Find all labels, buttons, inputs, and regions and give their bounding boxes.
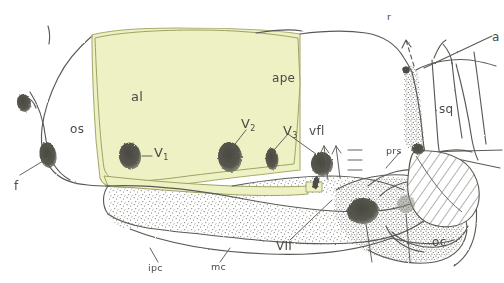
label-V3-sub: 3 <box>292 131 297 140</box>
label-V1-sub: 1 <box>163 153 168 162</box>
label-prs: prs <box>386 146 402 156</box>
label-V2: V2 <box>241 117 256 130</box>
label-oc: oc <box>432 236 447 248</box>
label-mc: mc <box>211 262 226 272</box>
label-r: r <box>387 12 391 22</box>
label-V1: V1 <box>154 146 169 159</box>
label-a: a <box>492 31 500 43</box>
blot-f-lower <box>37 141 58 170</box>
anatomical-drawing <box>0 0 504 283</box>
label-vfl: vfl <box>309 125 325 137</box>
label-al: al <box>131 90 143 103</box>
label-V2-sub: 2 <box>250 124 255 133</box>
label-V3-text: V <box>283 123 292 138</box>
label-VII: VII <box>276 240 292 252</box>
label-ipc: ipc <box>148 263 163 273</box>
label-V2-text: V <box>241 116 250 131</box>
figure-canvas: al os f ape V1 V2 V3 vfl sq prs oc VII i… <box>0 0 504 283</box>
blot-soft-posterior <box>397 195 415 213</box>
label-V3: V3 <box>283 124 298 137</box>
label-f: f <box>14 180 19 192</box>
highlight-region-al <box>92 28 322 196</box>
label-os: os <box>70 123 84 135</box>
hatched-plate-prs <box>408 151 480 227</box>
label-V1-text: V <box>154 145 163 160</box>
blot-f-upper <box>15 93 33 114</box>
label-sq: sq <box>439 103 453 115</box>
blot-vfl <box>309 150 335 177</box>
label-ape: ape <box>272 72 295 84</box>
blot-r-point <box>402 67 410 74</box>
